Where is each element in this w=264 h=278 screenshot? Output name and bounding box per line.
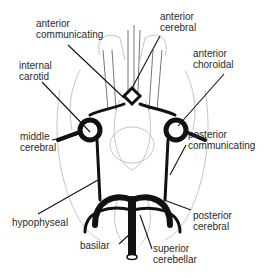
label-internal-carotid: internal carotid [19,60,52,82]
label-superior-cerebellar: superior cerebellar [153,243,197,265]
label-anterior-cerebral: anterior cerebral [160,11,196,33]
label-anterior-communicating: anterior communicating [36,18,103,40]
label-anterior-choroidal: anterior choroidal [193,48,234,70]
label-hypophyseal: hypophyseal [12,217,68,228]
label-middle-cerebral: middle cerebral [20,131,56,153]
label-posterior-communicating: posterior communicating [188,129,255,151]
label-posterior-cerebral: posterior cerebral [193,210,232,232]
label-basilar: basilar [80,240,109,251]
